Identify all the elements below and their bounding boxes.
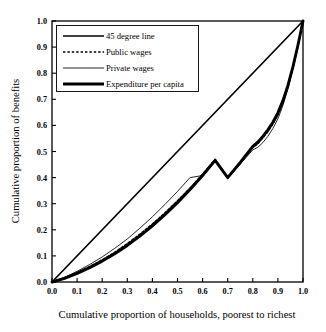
chart-canvas: 0.00.10.20.30.40.50.60.70.80.91.0 0.00.1… bbox=[0, 0, 326, 332]
legend-label-expenditure-per-capita: Expenditure per capita bbox=[106, 79, 184, 89]
legend-label-private-wages: Private wages bbox=[106, 63, 155, 73]
x-axis-tick-label: 0.6 bbox=[197, 287, 207, 296]
y-axis-tick-label: 0.6 bbox=[37, 121, 47, 130]
y-axis-tick-label: 0.1 bbox=[37, 252, 47, 261]
y-axis-tick-label: 0.9 bbox=[37, 43, 47, 52]
y-axis-tick-label: 0.2 bbox=[37, 226, 47, 235]
x-axis-tick-label: 0.3 bbox=[122, 287, 132, 296]
x-axis-tick-label: 0.7 bbox=[223, 287, 233, 296]
x-axis-title: Cumulative proportion of households, poo… bbox=[59, 309, 296, 320]
x-axis-tick-label: 0.8 bbox=[248, 287, 258, 296]
x-axis-tick-label: 0.1 bbox=[72, 287, 82, 296]
y-axis-tick-label: 0.4 bbox=[37, 174, 47, 183]
y-axis-tick-label: 0.0 bbox=[37, 278, 47, 287]
y-axis-title: Cumulative proportion of benefits bbox=[10, 79, 21, 223]
x-axis-tick-label: 0.9 bbox=[273, 287, 283, 296]
y-axis-tick-labels: 0.00.10.20.30.40.50.60.70.80.91.0 bbox=[37, 17, 47, 287]
x-axis-tick-label: 1.0 bbox=[298, 287, 308, 296]
y-axis-tick-label: 0.3 bbox=[37, 200, 47, 209]
x-axis-tick-label: 0.5 bbox=[172, 287, 182, 296]
y-axis-tick-label: 0.8 bbox=[37, 69, 47, 78]
x-axis-tick-label: 0.4 bbox=[147, 287, 157, 296]
x-axis-tick-labels: 0.00.10.20.30.40.50.60.70.80.91.0 bbox=[47, 287, 308, 296]
y-axis-tick-label: 0.7 bbox=[37, 95, 47, 104]
legend-label-45-degree-line: 45 degree line bbox=[106, 31, 155, 41]
y-axis-tick-label: 1.0 bbox=[37, 17, 47, 26]
x-axis-tick-label: 0.2 bbox=[97, 287, 107, 296]
x-axis-tick-label: 0.0 bbox=[47, 287, 57, 296]
lorenz-curve-figure: 0.00.10.20.30.40.50.60.70.80.91.0 0.00.1… bbox=[0, 0, 326, 332]
chart-legend: 45 degree line Public wages Private wage… bbox=[57, 26, 199, 92]
legend-label-public-wages: Public wages bbox=[106, 47, 152, 57]
y-axis-tick-label: 0.5 bbox=[37, 148, 47, 157]
